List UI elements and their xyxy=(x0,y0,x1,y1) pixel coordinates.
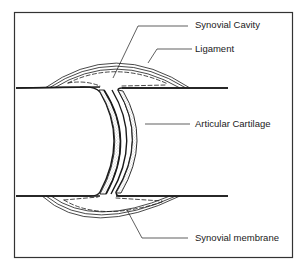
leader-synovial-cavity xyxy=(113,26,188,78)
left-bone xyxy=(16,87,121,196)
label-ligament: Ligament xyxy=(195,44,234,54)
label-synovial-membrane: Synovial membrane xyxy=(195,233,279,243)
right-bone xyxy=(111,88,228,196)
ligament-bottom xyxy=(42,196,180,218)
label-synovial-cavity: Synovial Cavity xyxy=(195,20,260,30)
leader-synovial-membrane xyxy=(127,210,188,238)
label-articular-cartilage: Articular Cartilage xyxy=(195,119,271,129)
leader-ligament xyxy=(148,49,192,63)
joint-diagram xyxy=(0,0,306,266)
ligament-top xyxy=(45,63,190,88)
